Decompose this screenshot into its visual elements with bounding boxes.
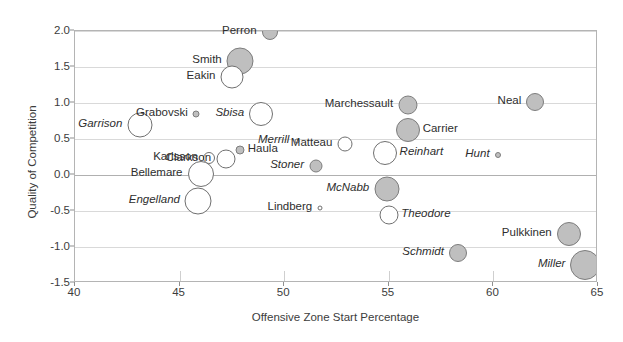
data-point-label: Miller (538, 258, 565, 270)
data-point-label: Carrier (423, 124, 458, 136)
x-tick-mark (283, 282, 284, 286)
x-tick-mark (179, 282, 180, 286)
data-point-label: Eakin (187, 70, 216, 82)
x-tick-label: 45 (159, 286, 199, 298)
x-tick-mark (74, 282, 75, 286)
bubble-chart: 2.01.51.00.50.0-0.5-1.0-1.5 404550556065… (0, 0, 623, 342)
data-point-bubble[interactable] (236, 145, 245, 154)
y-tick-mark (70, 138, 74, 139)
gridline-y (75, 211, 596, 212)
data-point-label: Garrison (78, 118, 122, 130)
data-point-bubble[interactable] (396, 118, 420, 142)
x-tick-label: 55 (368, 286, 408, 298)
data-point-bubble[interactable] (495, 152, 501, 158)
data-point-label: Karlsson (153, 152, 198, 164)
data-point-label: Smith (192, 54, 221, 66)
gridline-y (75, 67, 596, 68)
x-tick-label: 60 (472, 286, 512, 298)
data-point-label: Theodore (401, 209, 450, 221)
tick-x-inner (284, 271, 285, 282)
x-tick-label: 40 (54, 286, 94, 298)
gridline-y (75, 139, 596, 140)
data-point-label: Bellemare (131, 168, 183, 180)
data-point-label: Perron (222, 26, 257, 38)
y-tick-mark (70, 66, 74, 67)
data-point-bubble[interactable] (249, 102, 273, 126)
data-point-bubble[interactable] (526, 93, 544, 111)
y-tick-mark (70, 210, 74, 211)
data-point-bubble[interactable] (309, 159, 322, 172)
data-point-bubble[interactable] (570, 250, 597, 280)
x-tick-mark (388, 282, 389, 286)
data-point-bubble[interactable] (557, 222, 581, 246)
tick-x-inner (180, 271, 181, 282)
data-point-label: Marchessault (325, 98, 393, 110)
data-point-label: Stoner (270, 159, 304, 171)
x-tick-label: 65 (577, 286, 617, 298)
tick-x-inner (389, 271, 390, 282)
data-point-bubble[interactable] (373, 141, 397, 165)
data-point-bubble[interactable] (262, 30, 278, 40)
data-point-label: Schmidt (402, 246, 444, 258)
y-tick-mark (70, 102, 74, 103)
data-point-label: Engelland (129, 194, 180, 206)
data-point-bubble[interactable] (374, 177, 399, 202)
x-tick-mark (597, 282, 598, 286)
y-tick-mark (70, 30, 74, 31)
data-point-bubble[interactable] (185, 187, 212, 214)
y-tick-mark (70, 246, 74, 247)
data-point-bubble[interactable] (193, 110, 200, 117)
data-point-bubble[interactable] (379, 206, 398, 225)
data-point-label: Hunt (465, 148, 489, 160)
data-point-label: Lindberg (267, 201, 312, 213)
data-point-label: Grabovski (136, 107, 188, 119)
data-point-bubble[interactable] (398, 96, 417, 115)
y-axis-title: Quality of Competition (26, 52, 38, 272)
y-tick-mark (70, 174, 74, 175)
gridline-y (75, 31, 596, 32)
gridline-y (75, 247, 596, 248)
data-point-bubble[interactable] (317, 206, 322, 211)
tick-x-inner (493, 271, 494, 282)
x-tick-label: 50 (263, 286, 303, 298)
data-point-label: Haula (248, 143, 278, 155)
chart-title (0, 0, 623, 3)
data-point-label: Matteau (291, 137, 333, 149)
data-point-bubble[interactable] (220, 66, 243, 89)
y-tick-label: 2.0 (24, 24, 70, 36)
data-point-bubble[interactable] (449, 244, 467, 262)
data-point-label: McNabb (326, 183, 369, 195)
data-point-label: Sbisa (215, 107, 244, 119)
x-axis-title: Offensive Zone Start Percentage (74, 311, 597, 323)
data-point-bubble[interactable] (188, 161, 214, 187)
x-tick-mark (492, 282, 493, 286)
data-point-label: Pulkkinen (502, 227, 552, 239)
data-point-bubble[interactable] (337, 137, 352, 152)
data-point-label: Reinhart (400, 147, 443, 159)
data-point-label: Neal (498, 95, 522, 107)
data-point-bubble[interactable] (216, 150, 235, 169)
